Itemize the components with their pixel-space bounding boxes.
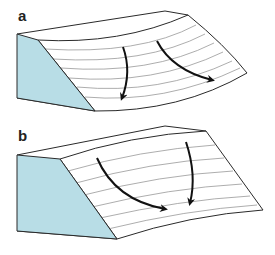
diagram-canvas — [0, 0, 275, 255]
panel-a-diagram — [17, 11, 247, 111]
panel-b-diagram — [17, 126, 263, 239]
